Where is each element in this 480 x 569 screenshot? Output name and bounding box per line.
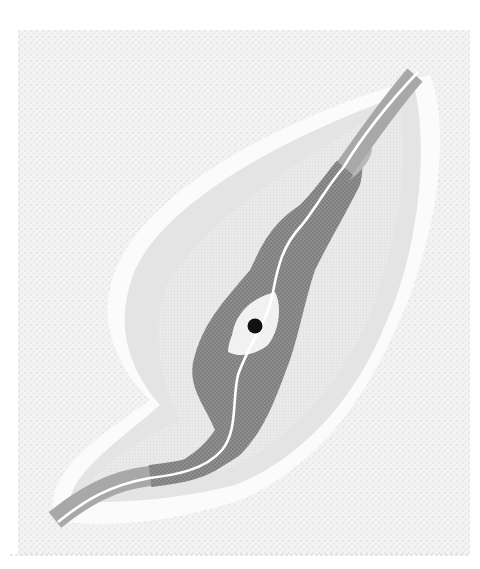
- source-point: [248, 319, 263, 334]
- zone-diagram: [0, 0, 480, 569]
